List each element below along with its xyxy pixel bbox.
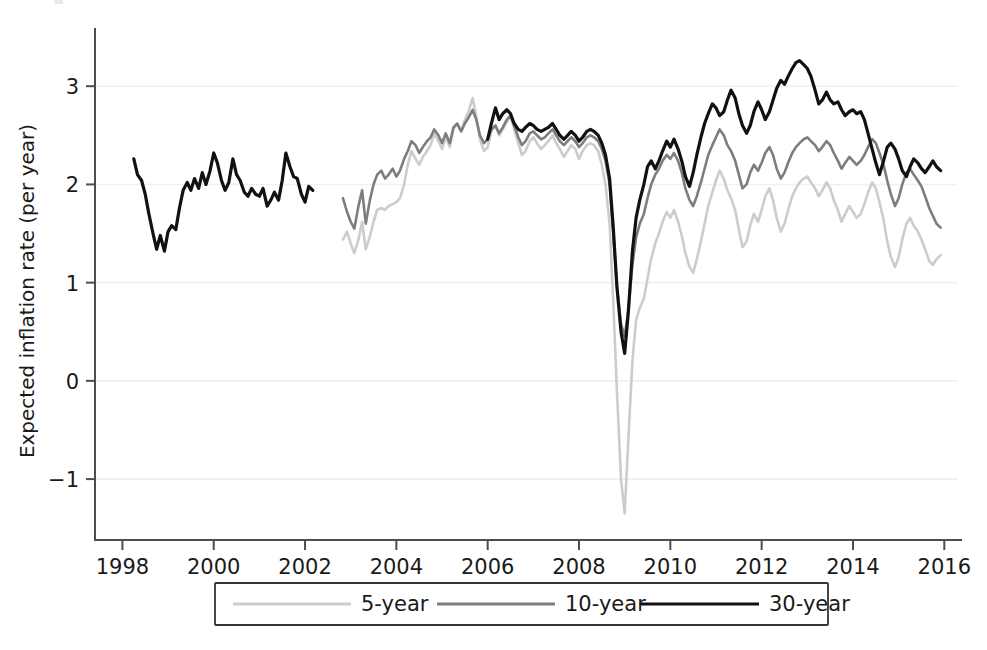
y-tick-label: 2 [66, 173, 79, 197]
series-lines [134, 61, 941, 514]
y-tick-label: −1 [48, 468, 79, 492]
y-axis-ticks [86, 86, 95, 479]
x-tick-label: 2014 [826, 555, 879, 579]
series-line-30-year [134, 153, 313, 251]
legend-label-5-year: 5-year [361, 592, 429, 616]
chart-figure: −10123 199820002002200420062008201020122… [0, 0, 987, 650]
legend-label-30-year: 30-year [769, 592, 850, 616]
x-tick-label: 2002 [278, 555, 331, 579]
x-tick-label: 2000 [187, 555, 240, 579]
x-tick-label: 1998 [96, 555, 149, 579]
x-tick-label: 2010 [644, 555, 697, 579]
axis-spine [95, 28, 962, 540]
scan-artifact [54, 0, 63, 4]
x-tick-label: 2004 [370, 555, 423, 579]
y-axis-title: Expected inflation rate (per year) [15, 124, 39, 458]
x-tick-label: 2008 [552, 555, 605, 579]
y-tick-label: 1 [66, 272, 79, 296]
x-axis-ticks [122, 540, 944, 550]
x-axis-tick-labels: 1998200020022004200620082010201220142016 [96, 555, 971, 579]
y-axis-tick-labels: −10123 [48, 75, 79, 492]
y-tick-label: 3 [66, 75, 79, 99]
x-tick-label: 2006 [461, 555, 514, 579]
chart-legend: 5-year10-year30-year [215, 583, 850, 625]
y-tick-label: 0 [66, 370, 79, 394]
legend-label-10-year: 10-year [565, 592, 646, 616]
axes [86, 28, 962, 550]
x-tick-label: 2012 [735, 555, 788, 579]
inflation-expectations-line-chart: −10123 199820002002200420062008201020122… [0, 0, 987, 650]
series-line-30-year [488, 61, 941, 354]
x-tick-label: 2016 [918, 555, 971, 579]
